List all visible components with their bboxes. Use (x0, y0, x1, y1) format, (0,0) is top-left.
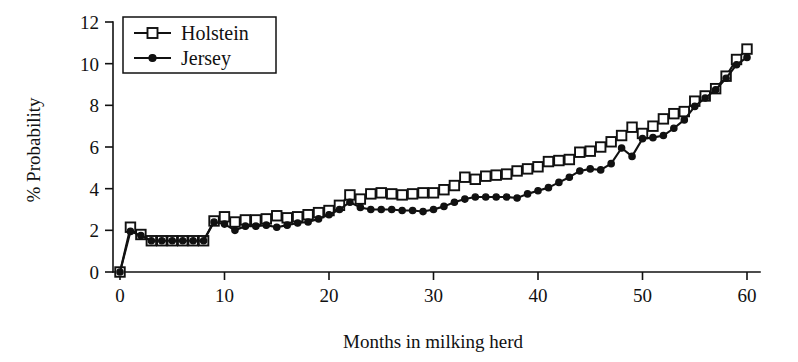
marker-filled-circle (639, 136, 645, 142)
marker-open-square (659, 114, 669, 124)
marker-filled-circle (221, 221, 227, 227)
marker-open-square (460, 172, 470, 182)
x-tick-label: 50 (633, 285, 652, 306)
x-tick-label: 20 (320, 285, 339, 306)
marker-open-square (544, 157, 554, 167)
marker-filled-circle (608, 161, 614, 167)
marker-filled-circle (420, 208, 426, 214)
marker-filled-circle (399, 207, 405, 213)
marker-filled-circle (577, 168, 583, 174)
marker-filled-circle (587, 166, 593, 172)
marker-open-square (596, 142, 606, 152)
series-line (120, 49, 747, 272)
legend-label-holstein: Holstein (181, 22, 249, 44)
x-axis-title: Months in milking herd (343, 331, 523, 352)
marker-open-square (523, 164, 533, 174)
x-axis: 0102030405060 (113, 272, 760, 306)
marker-filled-circle (671, 125, 677, 131)
marker-open-square (533, 162, 543, 172)
chart-legend: HolsteinJersey (123, 17, 276, 73)
marker-filled-circle (545, 185, 551, 191)
marker-filled-circle (159, 238, 165, 244)
marker-open-square (303, 210, 313, 220)
y-axis: 024681012 (80, 12, 113, 283)
marker-filled-circle (723, 75, 729, 81)
marker-filled-circle (190, 238, 196, 244)
marker-filled-circle (472, 194, 478, 200)
series-jersey (117, 54, 750, 275)
data-series-group (115, 44, 752, 276)
marker-open-square (617, 131, 627, 141)
marker-filled-circle (127, 228, 133, 234)
marker-filled-circle (702, 95, 708, 101)
y-tick-label: 8 (90, 95, 100, 116)
marker-filled-circle (504, 194, 510, 200)
y-tick-label: 10 (80, 54, 99, 75)
marker-open-square (418, 188, 428, 198)
marker-open-square (565, 155, 575, 165)
marker-open-square (450, 181, 460, 191)
series-line (120, 57, 747, 272)
marker-filled-circle (169, 238, 175, 244)
marker-open-square (742, 44, 752, 54)
marker-open-square (627, 122, 637, 131)
marker-filled-circle (315, 216, 321, 222)
marker-filled-circle (274, 224, 280, 230)
marker-open-square (554, 156, 564, 166)
x-tick-label: 60 (738, 285, 757, 306)
marker-filled-circle (744, 54, 750, 60)
marker-filled-circle (660, 132, 666, 138)
series-holstein (115, 44, 752, 276)
marker-filled-circle (305, 219, 311, 225)
marker-filled-circle (357, 204, 363, 210)
legend-marker-filled-circle (149, 55, 156, 62)
marker-filled-circle (598, 167, 604, 173)
x-tick-label: 0 (115, 285, 125, 306)
marker-filled-circle (430, 206, 436, 212)
marker-filled-circle (284, 222, 290, 228)
marker-filled-circle (336, 206, 342, 212)
marker-open-square (481, 171, 491, 181)
marker-filled-circle (347, 199, 353, 205)
marker-filled-circle (232, 227, 238, 233)
marker-filled-circle (378, 206, 384, 212)
legend-label-jersey: Jersey (181, 47, 231, 70)
marker-open-square (282, 213, 292, 223)
marker-filled-circle (566, 174, 572, 180)
marker-open-square (408, 189, 418, 199)
y-tick-label: 2 (90, 220, 100, 241)
marker-open-square (230, 217, 240, 227)
y-tick-label: 6 (90, 137, 100, 158)
marker-open-square (575, 147, 585, 157)
marker-open-square (669, 109, 679, 119)
marker-filled-circle (629, 153, 635, 159)
y-tick-label: 4 (90, 179, 100, 200)
marker-filled-circle (514, 195, 520, 201)
marker-filled-circle (493, 194, 499, 200)
marker-filled-circle (713, 87, 719, 93)
chart-figure: 024681012 0102030405060 HolsteinJersey M… (0, 0, 798, 362)
marker-filled-circle (733, 62, 739, 68)
marker-filled-circle (201, 238, 207, 244)
marker-filled-circle (650, 135, 656, 141)
marker-filled-circle (556, 179, 562, 185)
marker-filled-circle (410, 207, 416, 213)
marker-open-square (397, 190, 407, 200)
legend-marker-open-square (148, 28, 158, 38)
marker-open-square (356, 194, 366, 204)
marker-filled-circle (483, 194, 489, 200)
marker-filled-circle (295, 220, 301, 226)
marker-open-square (648, 121, 658, 131)
marker-open-square (502, 169, 512, 179)
y-tick-label: 0 (90, 262, 100, 283)
marker-open-square (586, 146, 596, 156)
marker-open-square (471, 175, 481, 185)
chart-canvas: 024681012 0102030405060 HolsteinJersey M… (0, 0, 798, 362)
marker-filled-circle (211, 219, 217, 225)
marker-open-square (387, 189, 397, 199)
marker-open-square (491, 170, 501, 180)
marker-filled-circle (148, 238, 154, 244)
marker-filled-circle (117, 269, 123, 275)
y-tick-label: 12 (80, 12, 99, 33)
marker-open-square (272, 211, 282, 221)
